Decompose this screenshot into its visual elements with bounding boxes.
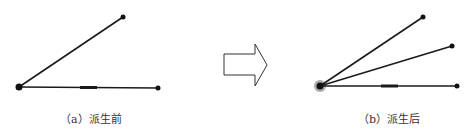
endpoint-node <box>421 15 426 20</box>
origin-node <box>16 84 23 91</box>
right-arrow-icon <box>224 44 267 86</box>
edge-upper <box>320 17 423 86</box>
caption-panel-b: （b）派生后 <box>358 110 420 126</box>
edge-middle <box>320 46 452 86</box>
panel-a-graph <box>16 15 161 91</box>
endpoint-node <box>156 86 161 91</box>
edge-upper <box>19 17 123 87</box>
endpoint-node <box>121 15 126 20</box>
panel-b-graph <box>314 15 460 93</box>
origin-node <box>317 83 324 90</box>
caption-panel-a: （a）派生前 <box>60 110 122 126</box>
endpoint-node <box>450 44 455 49</box>
endpoint-node <box>455 84 460 89</box>
